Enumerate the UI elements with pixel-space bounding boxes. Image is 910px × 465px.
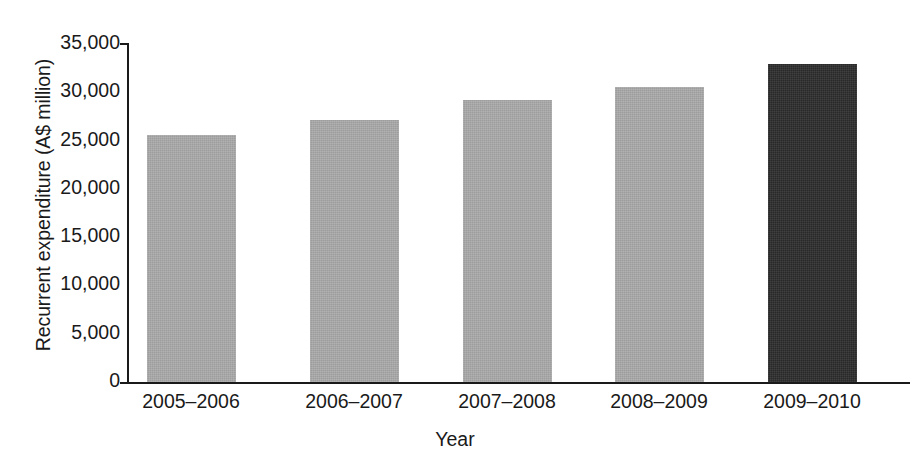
y-tick-label: 5,000	[36, 323, 120, 343]
x-axis-title-text: Year	[435, 428, 474, 451]
bar-2008-2009[interactable]	[615, 87, 704, 382]
y-tick-label: 20,000	[36, 178, 120, 198]
y-tick-label: 35,000	[36, 33, 120, 53]
x-tick-label-2007-2008: 2007–2008	[427, 391, 587, 412]
y-tick-mark	[120, 382, 127, 384]
x-tick-label-2009-2010: 2009–2010	[732, 391, 892, 412]
y-tick-label: 15,000	[36, 226, 120, 246]
y-tick-label: 25,000	[36, 130, 120, 150]
y-axis-tick-labels: 35,000 30,000 25,000 20,000 15,000 10,00…	[36, 0, 120, 465]
bar-2006-2007[interactable]	[310, 120, 399, 382]
bar-2005-2006[interactable]	[147, 135, 236, 382]
y-tick-label: 0	[36, 371, 120, 391]
bar-2007-2008[interactable]	[463, 100, 552, 382]
y-tick-label: 10,000	[36, 274, 120, 294]
plot-area	[127, 43, 910, 384]
x-tick-label-2006-2007: 2006–2007	[274, 391, 434, 412]
x-axis-title: Year	[0, 428, 910, 451]
bar-chart-figure: Recurrent expenditure (A$ million) 35,00…	[0, 0, 910, 465]
x-tick-label-2008-2009: 2008–2009	[579, 391, 739, 412]
bar-2009-2010[interactable]	[768, 64, 857, 382]
y-tick-label: 30,000	[36, 81, 120, 101]
x-axis-line	[127, 382, 910, 384]
x-tick-label-2005-2006: 2005–2006	[111, 391, 271, 412]
y-tick-mark	[120, 43, 127, 45]
y-axis-line	[127, 43, 129, 384]
